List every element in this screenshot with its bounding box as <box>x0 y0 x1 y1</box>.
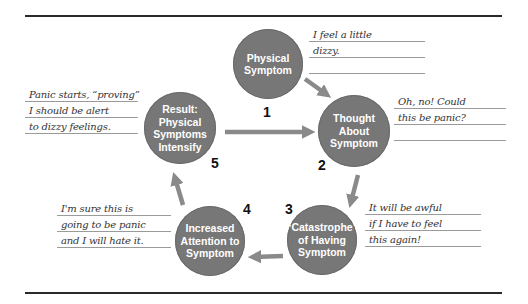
step-number-1: 1 <box>263 104 271 120</box>
note-line: I'm sure this is <box>57 200 171 216</box>
note-line: to dizzy feelings. <box>25 118 138 134</box>
arrow-2-to-3 <box>351 175 358 202</box>
step-3-label-line: of Having <box>298 234 346 247</box>
step-number-5: 5 <box>211 155 219 171</box>
step-circle-physical-symptom: Physical Symptom <box>233 29 303 99</box>
step-2-label-line: Thought <box>333 112 375 125</box>
note-step-3: It will be awful if I have to feel this … <box>365 199 481 247</box>
step-2-label-line: Symptom <box>330 137 378 150</box>
note-line: Oh, no! Could <box>394 93 506 109</box>
step-number-2: 2 <box>318 157 326 173</box>
note-step-5: Panic starts, “proving” I should be aler… <box>25 86 138 134</box>
arrow-3-to-4 <box>254 256 283 257</box>
step-number-3: 3 <box>285 201 293 217</box>
note-line: going to be panic <box>57 216 171 232</box>
note-line: dizzy. <box>309 42 425 58</box>
note-line: this be panic? <box>394 109 506 125</box>
note-line: this again! <box>365 231 481 247</box>
step-1-label-line: Symptom <box>244 64 292 77</box>
note-step-4: I'm sure this is going to be panic and I… <box>57 200 171 248</box>
step-1-label-line: Physical <box>247 52 290 65</box>
note-line: It will be awful <box>365 199 481 215</box>
arrow-1-to-2 <box>305 79 326 94</box>
note-line <box>394 125 506 141</box>
note-line: I should be alert <box>25 102 138 118</box>
note-step-1: I feel a little dizzy. <box>309 26 425 74</box>
step-circle-increased-attention: Increased Attention to Symptom <box>175 206 245 276</box>
step-5-label-line: Symptoms <box>153 128 207 141</box>
step-circle-catastrophe: “Catastrophe” of Having Symptom <box>287 205 357 275</box>
step-4-label-line: Increased <box>185 222 234 235</box>
step-4-label-line: Symptom <box>186 247 234 260</box>
note-line: if I have to feel <box>365 215 481 231</box>
step-4-label-line: Attention to <box>181 235 240 248</box>
step-3-label-line: “Catastrophe” <box>286 221 358 234</box>
step-circle-result-intensify: Result: Physical Symptoms Intensify <box>144 92 216 164</box>
note-line: I feel a little <box>309 26 425 42</box>
step-2-label-line: About <box>339 125 369 138</box>
note-step-2: Oh, no! Could this be panic? <box>394 93 506 141</box>
note-line <box>309 58 425 74</box>
note-line: Panic starts, “proving” <box>25 86 138 102</box>
note-line: and I will hate it. <box>57 232 171 248</box>
step-number-4: 4 <box>243 201 251 217</box>
step-5-label-line: Result: <box>162 103 198 116</box>
step-3-label-line: Symptom <box>298 246 346 259</box>
step-5-label-line: Intensify <box>158 141 201 154</box>
step-5-label-line: Physical <box>159 116 202 129</box>
arrow-4-to-5 <box>175 178 183 205</box>
step-circle-thought-about-symptom: Thought About Symptom <box>318 95 390 167</box>
